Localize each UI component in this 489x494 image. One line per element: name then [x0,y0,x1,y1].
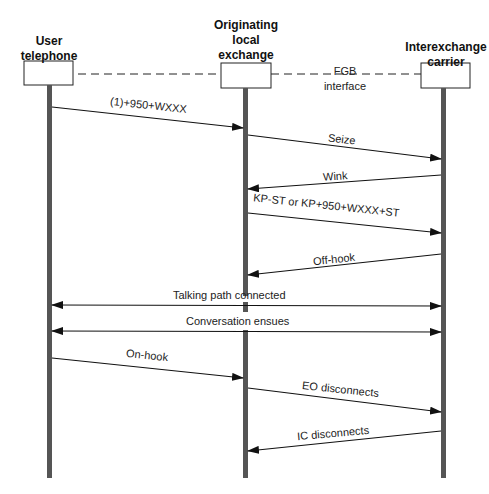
participant-box-user [24,61,73,85]
label-line: FGB [320,64,370,79]
participant-label-ixc: Interexchange carrier [396,40,489,70]
label-line: Interexchange [396,40,489,55]
label-line: carrier [396,55,489,70]
participant-label-user: User telephone [10,34,88,64]
label-line: User [10,34,88,49]
lifeline-user [47,85,52,478]
message-arrow-7 [52,331,441,332]
message-label-3: Wink [323,169,348,183]
lifeline-lec [243,88,248,478]
label-line: interface [320,79,370,94]
label-line: local [206,33,286,48]
message-label-7: Conversation ensues [186,315,289,327]
label-line: telephone [10,49,88,64]
participant-box-lec [221,63,271,88]
participant-label-lec: Originating local exchange [206,18,286,63]
label-line: exchange [206,48,286,63]
label-line: Originating [206,18,286,33]
interface-label: FGB interface [320,64,370,94]
lifeline-ixc [441,88,446,478]
message-arrow-6 [52,305,441,306]
sequence-diagram-canvas [0,0,489,494]
message-arrow-4 [248,213,441,233]
message-label-6: Talking path connected [173,289,286,301]
